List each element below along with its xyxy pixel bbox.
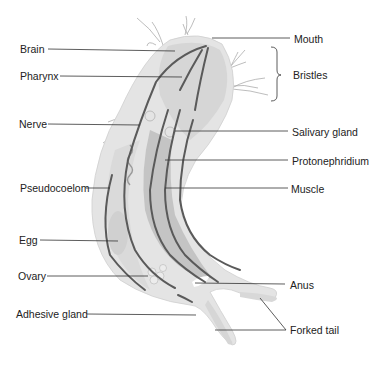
label-brain: Brain [20,43,45,55]
label-muscle: Muscle [291,183,324,195]
label-bristles: Bristles [293,69,327,81]
label-anus: Anus [290,279,314,291]
label-pseudocoelom: Pseudocoelom [20,182,89,194]
label-ovary: Ovary [18,270,46,282]
label-mouth: Mouth [294,33,323,45]
label-pharynx: Pharynx [20,70,59,82]
label-egg: Egg [19,234,38,246]
label-protonephridium: Protonephridium [292,155,369,167]
label-nerve: Nerve [19,118,47,130]
label-forked-tail: Forked tail [290,324,339,336]
label-adhesive-gland: Adhesive gland [16,308,88,320]
label-salivary-gland: Salivary gland [292,126,358,138]
